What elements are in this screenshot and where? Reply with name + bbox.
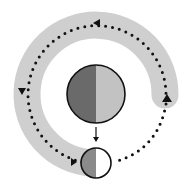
dotted-return-path (114, 104, 166, 162)
down-arrow-icon (93, 127, 99, 142)
small-circle (81, 148, 111, 178)
cycle-diagram (0, 0, 195, 186)
large-circle (67, 65, 125, 123)
